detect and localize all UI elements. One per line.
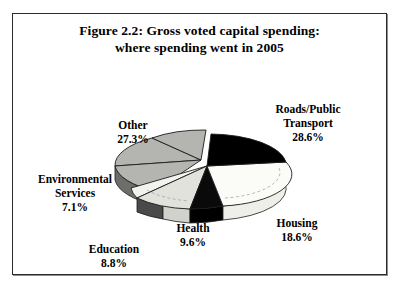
pie-label-health: Health 9.6% — [153, 221, 233, 249]
pie-label-housing-value: 18.6% — [251, 230, 343, 244]
pie-label-environmental-services: Environmental Services 7.1% — [19, 172, 131, 214]
pie-label-roads-line-2: Transport — [253, 116, 363, 130]
pie-label-health-value: 9.6% — [153, 235, 233, 249]
pie-label-environmental-line-1: Environmental — [19, 172, 131, 186]
pie-chart: Roads/Public Transport 28.6% Other 27.3%… — [13, 14, 386, 274]
pie-label-education-value: 8.8% — [65, 256, 163, 270]
pie-label-roads: Roads/Public Transport 28.6% — [253, 102, 363, 144]
pie-label-housing: Housing 18.6% — [251, 216, 343, 244]
pie-label-housing-line-1: Housing — [251, 216, 343, 230]
figure-frame: Figure 2.2: Gross voted capital spending… — [12, 13, 387, 275]
pie-label-education: Education 8.8% — [65, 242, 163, 270]
pie-label-environmental-line-2: Services — [19, 186, 131, 200]
pie-label-health-line-1: Health — [153, 221, 233, 235]
pie-label-environmental-value: 7.1% — [19, 200, 131, 214]
pie-label-other: Other 27.3% — [88, 118, 178, 146]
pie-label-other-line-1: Other — [88, 118, 178, 132]
pie-label-roads-value: 28.6% — [253, 130, 363, 144]
pie-label-education-line-1: Education — [65, 242, 163, 256]
pie-label-roads-line-1: Roads/Public — [253, 102, 363, 116]
pie-label-other-value: 27.3% — [88, 132, 178, 146]
